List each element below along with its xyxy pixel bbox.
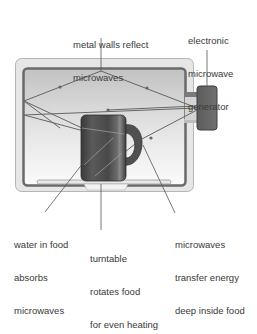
label-energy-transfer: microwaves transfer energy deep inside f… — [175, 217, 245, 334]
label-turntable-line-2: rotates food — [90, 286, 158, 297]
label-turntable: turntable rotates food for even heating — [90, 231, 158, 334]
label-walls-line-1: metal walls reflect — [73, 39, 149, 50]
label-generator: electronic microwave generator — [188, 13, 233, 134]
label-generator-line-1: electronic — [188, 35, 233, 46]
label-walls-line-2: microwaves — [73, 72, 149, 83]
turntable-base — [84, 184, 128, 190]
mug — [81, 115, 126, 181]
label-water-line-1: water in food — [14, 239, 68, 250]
label-water-absorbs: water in food absorbs microwaves — [14, 217, 68, 334]
label-water-line-3: microwaves — [14, 305, 68, 316]
label-metal-walls: metal walls reflect microwaves — [73, 17, 149, 105]
label-transfer-line-2: transfer energy — [175, 272, 245, 283]
label-turntable-line-3: for even heating — [90, 319, 158, 330]
label-transfer-line-3: deep inside food — [175, 305, 245, 316]
label-generator-line-2: microwave — [188, 68, 233, 79]
label-transfer-line-1: microwaves — [175, 239, 245, 250]
label-generator-line-3: generator — [188, 101, 233, 112]
label-turntable-line-1: turntable — [90, 253, 158, 264]
label-water-line-2: absorbs — [14, 272, 68, 283]
